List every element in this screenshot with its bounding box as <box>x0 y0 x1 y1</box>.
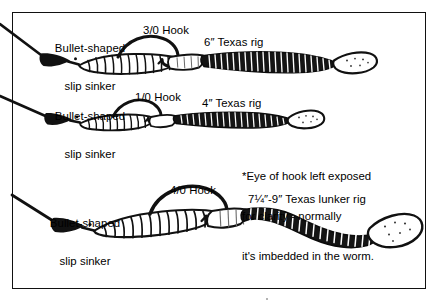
rig-lunker-sinker-label: Bullet-shaped slip sinker <box>29 192 141 293</box>
hook-eye-note: *Eye of hook left exposed for clarity - … <box>242 144 374 289</box>
rig-6in-hook-label: 3/0 Hook <box>143 24 189 37</box>
rig-4in-sinker-label-line2: slip sinker <box>36 148 144 161</box>
rig-lunker-rig-label: 7¼″-9″ Texas lunker rig <box>248 193 366 206</box>
rig-4in-sinker-label-line1: Bullet-shaped <box>36 110 144 123</box>
rig-lunker-sinker-label-line2: slip sinker <box>29 255 141 268</box>
rig-4in-rig-label: 4″ Texas rig <box>202 97 262 110</box>
rig-lunker-sinker-label-line1: Bullet-shaped <box>29 217 141 230</box>
rig-4in-hook-label: 1/0 Hook <box>135 91 181 104</box>
rig-6in-sinker-label-line1: Bullet-shaped <box>36 42 144 55</box>
hook-eye-note-line1: *Eye of hook left exposed <box>242 170 374 183</box>
rig-6in-rig-label: 6″ Texas rig <box>204 36 264 49</box>
hook-eye-note-line3: it's imbedded in the worm. <box>242 250 374 263</box>
print-speck <box>266 298 268 300</box>
figure-canvas: Bullet-shaped slip sinker 3/0 Hook 6″ Te… <box>0 0 443 307</box>
rig-4in-sinker-label: Bullet-shaped slip sinker <box>36 85 144 186</box>
hook-eye-note-line2: for clarity - normally <box>242 210 374 223</box>
rig-lunker-hook-label: 4/0 Hook <box>170 184 216 197</box>
